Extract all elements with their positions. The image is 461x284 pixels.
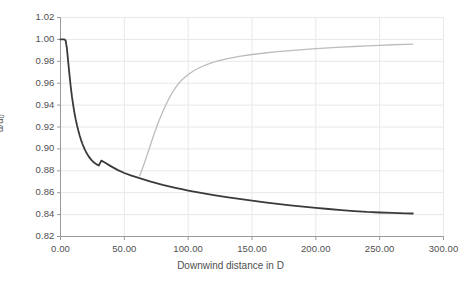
y-axis-title-text: u/u0	[0, 114, 6, 132]
y-axis-title-base: u/u	[0, 118, 5, 132]
x-tick-label: 50.00	[94, 243, 154, 254]
data-series-layer	[61, 39, 413, 213]
tick-marks	[57, 18, 444, 241]
chart-figure: 0.820.840.860.880.900.920.940.960.981.00…	[0, 0, 461, 284]
y-tick-label: 1.00	[15, 33, 55, 44]
x-axis-title: Downwind distance in D	[0, 260, 461, 271]
y-tick-label: 0.88	[15, 164, 55, 175]
y-tick-label: 1.02	[15, 11, 55, 22]
x-tick-label: 200.00	[286, 243, 346, 254]
y-tick-label: 0.84	[15, 208, 55, 219]
x-tick-label: 0.00	[31, 243, 91, 254]
y-tick-label: 0.98	[15, 55, 55, 66]
x-tick-label: 250.00	[350, 243, 410, 254]
y-axis-title-subscript: 0	[0, 114, 6, 118]
y-tick-label: 0.86	[15, 186, 55, 197]
y-tick-label: 0.96	[15, 77, 55, 88]
plot-canvas	[0, 0, 461, 284]
velocity-deficit-curve	[61, 39, 413, 213]
y-tick-label: 0.82	[15, 230, 55, 241]
grid-lines	[61, 18, 444, 237]
y-axis-title: u/u0	[0, 112, 31, 134]
x-tick-label: 150.00	[222, 243, 282, 254]
x-tick-label: 300.00	[414, 243, 461, 254]
x-tick-label: 100.00	[158, 243, 218, 254]
wake-recovery-curve	[140, 44, 413, 176]
y-tick-label: 0.90	[15, 142, 55, 153]
y-tick-label: 0.94	[15, 99, 55, 110]
